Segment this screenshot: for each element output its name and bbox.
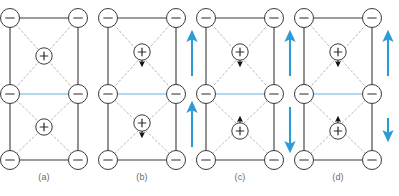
anion-top-right-a (69, 9, 88, 28)
anion-bottom-left-b (99, 151, 118, 170)
panel-caption-d: (d) (318, 172, 358, 182)
panel-caption-b: (b) (122, 172, 162, 182)
anion-top-left-d (295, 9, 314, 28)
anion-top-right-c (265, 9, 284, 28)
anion-bottom-right-b (167, 151, 186, 170)
anion-mid-left-d (295, 85, 314, 104)
cation-upper-d (330, 44, 346, 60)
anion-bottom-right-c (265, 151, 284, 170)
cation-lower-b (134, 115, 150, 131)
anion-bottom-left-d (295, 151, 314, 170)
unit-cell-panel-c (197, 9, 291, 170)
anion-bottom-left-a (1, 151, 20, 170)
panel-caption-c: (c) (220, 172, 260, 182)
unit-cell-panel-b (99, 9, 193, 170)
anion-top-left-a (1, 9, 20, 28)
cation-lower-a (36, 119, 52, 135)
cation-lower-d (330, 123, 346, 139)
cation-upper-c (232, 44, 248, 60)
anion-mid-left-c (197, 85, 216, 104)
unit-cell-panel-a (1, 9, 88, 170)
anion-mid-right-a (69, 85, 88, 104)
anion-mid-left-a (1, 85, 20, 104)
cation-upper-b (134, 44, 150, 60)
anion-top-right-b (167, 9, 186, 28)
figure-container: (a) (b) (c) (d) (0, 0, 399, 196)
anion-mid-right-d (363, 85, 382, 104)
anion-bottom-left-c (197, 151, 216, 170)
lattice-diagram-svg (0, 0, 399, 196)
anion-top-right-d (363, 9, 382, 28)
anion-bottom-right-d (363, 151, 382, 170)
anion-mid-right-c (265, 85, 284, 104)
cation-upper-a (36, 48, 52, 64)
cation-lower-c (232, 123, 248, 139)
anion-top-left-c (197, 9, 216, 28)
anion-top-left-b (99, 9, 118, 28)
anion-bottom-right-a (69, 151, 88, 170)
panel-caption-a: (a) (24, 172, 64, 182)
anion-mid-right-b (167, 85, 186, 104)
unit-cell-panel-d (295, 9, 389, 170)
anion-mid-left-b (99, 85, 118, 104)
